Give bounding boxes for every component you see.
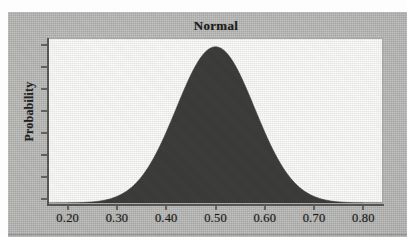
x-axis-tick <box>362 205 364 210</box>
x-axis-tick-label: 0.60 <box>238 211 292 226</box>
y-axis-tick <box>41 176 48 178</box>
y-axis-tick <box>41 66 48 68</box>
x-axis-tick <box>215 205 217 210</box>
y-axis-tick <box>41 198 48 200</box>
chart-title: Normal <box>48 18 384 34</box>
x-axis-tick-label: 0.80 <box>336 211 390 226</box>
normal-distribution-curve <box>49 39 382 203</box>
curve-fill-path <box>49 47 382 203</box>
x-axis-tick <box>313 205 315 210</box>
y-axis-tick <box>41 88 48 90</box>
y-axis-tick <box>41 110 48 112</box>
x-axis-tick-label: 0.30 <box>90 211 144 226</box>
x-axis-tick <box>67 205 69 210</box>
y-axis-title: Probability <box>22 62 37 162</box>
x-axis-tick <box>116 205 118 210</box>
x-axis-tick <box>165 205 167 210</box>
figure-canvas: Normal Probability 0.200.300.400.500.600… <box>8 12 407 237</box>
y-axis-tick <box>41 154 48 156</box>
bottom-rule <box>8 234 407 235</box>
y-axis-tick <box>41 44 48 46</box>
screenshot-root: Normal Probability 0.200.300.400.500.600… <box>0 0 407 237</box>
y-axis-line <box>47 38 49 205</box>
x-axis-tick-label: 0.40 <box>139 211 193 226</box>
x-axis-tick <box>264 205 266 210</box>
y-axis-tick <box>41 132 48 134</box>
x-axis-tick-label: 0.50 <box>189 211 243 226</box>
x-axis-tick-label: 0.70 <box>287 211 341 226</box>
plot-area <box>48 38 383 204</box>
x-axis-tick-label: 0.20 <box>41 211 95 226</box>
